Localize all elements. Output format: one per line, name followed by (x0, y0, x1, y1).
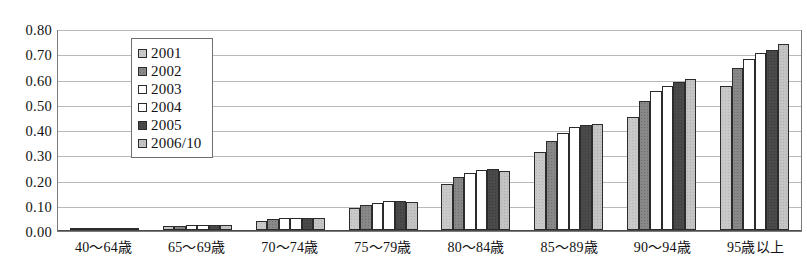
bar[interactable] (279, 218, 290, 230)
legend-label: 2004 (151, 100, 182, 115)
bar[interactable] (720, 86, 731, 230)
y-axis-labels: 0.000.100.200.300.400.500.600.700.80 (0, 30, 52, 232)
bar[interactable] (569, 127, 580, 230)
bar[interactable] (372, 203, 383, 230)
x-axis-line (58, 230, 801, 231)
bar[interactable] (673, 82, 684, 230)
x-axis-tick-label: 65～69歳 (150, 236, 243, 262)
bar[interactable] (662, 86, 673, 230)
bar[interactable] (685, 79, 696, 231)
legend-swatch-icon (138, 139, 147, 148)
bar[interactable] (755, 53, 766, 230)
bar[interactable] (453, 177, 464, 230)
bar[interactable] (639, 101, 650, 230)
y-axis-tick-label: 0.80 (25, 22, 52, 39)
legend-item[interactable]: 2001 (138, 44, 202, 62)
legend-label: 2005 (151, 118, 182, 133)
bar[interactable] (476, 170, 487, 230)
legend-label: 2002 (151, 64, 182, 79)
y-axis-tick-label: 0.70 (25, 47, 52, 64)
legend-label: 2006/10 (151, 136, 202, 151)
legend-label: 2001 (151, 46, 182, 61)
bar[interactable] (534, 152, 545, 230)
legend-swatch-icon (138, 85, 147, 94)
legend-label: 2003 (151, 82, 182, 97)
legend-swatch-icon (138, 67, 147, 76)
y-axis-tick-label: 0.50 (25, 97, 52, 114)
x-axis-tick-label: 95歳以上 (709, 236, 802, 262)
bar-group (708, 31, 801, 230)
x-axis-labels: 40～64歳65～69歳70～74歳75～79歳80～84歳85～89歳90～9… (57, 236, 802, 262)
legend-swatch-icon (138, 121, 147, 130)
legend-item[interactable]: 2006/10 (138, 134, 202, 152)
bar-group (244, 31, 337, 230)
legend-swatch-icon (138, 103, 147, 112)
bar[interactable] (383, 201, 394, 230)
x-axis-tick-label: 85～89歳 (523, 236, 616, 262)
bar[interactable] (732, 68, 743, 230)
bar-group (430, 31, 523, 230)
y-axis-tick-label: 0.40 (25, 123, 52, 140)
legend-item[interactable]: 2003 (138, 80, 202, 98)
bar[interactable] (267, 219, 278, 230)
bar[interactable] (464, 173, 475, 230)
bar[interactable] (313, 218, 324, 230)
x-axis-tick-label: 75～79歳 (336, 236, 429, 262)
bar[interactable] (441, 184, 452, 230)
bar[interactable] (395, 201, 406, 230)
legend-item[interactable]: 2004 (138, 98, 202, 116)
bar[interactable] (580, 125, 591, 230)
bar[interactable] (290, 218, 301, 230)
bar[interactable] (778, 44, 789, 230)
legend[interactable]: 200120022003200420052006/10 (131, 38, 213, 158)
bar[interactable] (592, 124, 603, 230)
bar[interactable] (302, 218, 313, 230)
y-axis-tick-label: 0.10 (25, 198, 52, 215)
bar[interactable] (349, 208, 360, 230)
legend-item[interactable]: 2005 (138, 116, 202, 134)
bar[interactable] (499, 171, 510, 230)
bar[interactable] (650, 91, 661, 230)
bar[interactable] (487, 169, 498, 230)
y-axis-tick-label: 0.20 (25, 173, 52, 190)
bar-group (337, 31, 430, 230)
bar[interactable] (406, 202, 417, 230)
scan-clipped-text (0, 0, 807, 9)
legend-swatch-icon (138, 49, 147, 58)
x-axis-tick-label: 70～74歳 (243, 236, 336, 262)
y-axis-tick-label: 0.00 (25, 224, 52, 241)
x-axis-tick-label: 90～94歳 (616, 236, 709, 262)
bar[interactable] (743, 59, 754, 230)
bar[interactable] (766, 50, 777, 230)
bar[interactable] (627, 117, 638, 230)
x-axis-tick-label: 40～64歳 (57, 236, 150, 262)
bar-group (522, 31, 615, 230)
y-axis-tick-label: 0.30 (25, 148, 52, 165)
bar[interactable] (360, 205, 371, 230)
x-axis-tick-label: 80～84歳 (430, 236, 523, 262)
bar[interactable] (557, 133, 568, 230)
legend-item[interactable]: 2002 (138, 62, 202, 80)
bar[interactable] (256, 221, 267, 230)
bar[interactable] (546, 141, 557, 230)
bar-group (615, 31, 708, 230)
y-axis-tick-label: 0.60 (25, 72, 52, 89)
chart-root: 0.000.100.200.300.400.500.600.700.80 40～… (0, 0, 807, 270)
